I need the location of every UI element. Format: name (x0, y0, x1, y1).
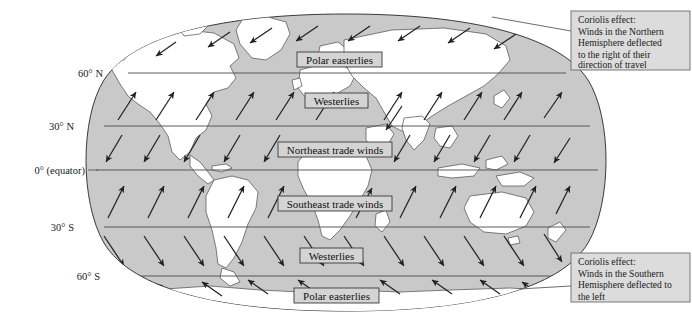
latitude-label-60s: 60° S (77, 271, 100, 282)
latitude-label-30s: 30° S (51, 222, 74, 233)
map-svg: 60° N 30° N 0° (equator) 30° S 60° S Pol… (0, 0, 692, 326)
label-text: Westerlies (309, 250, 355, 262)
callout-line-4: to the right of their (578, 49, 651, 60)
callout-line-1: Coriolis effect: (578, 256, 636, 267)
latitude-label-equator: 0° (equator) (34, 165, 85, 177)
label-text: Northeast trade winds (287, 144, 384, 156)
wind-band-label-northeast-trade-winds[interactable]: Northeast trade winds (278, 142, 392, 157)
label-text: Polar easterlies (303, 290, 370, 302)
callout-line-3: Hemisphere deflected to (578, 279, 672, 290)
callout-line-5: direction of travel (578, 59, 647, 70)
label-text: Polar easterlies (306, 54, 373, 66)
label-text: Westerlies (314, 95, 360, 107)
callout-line-1: Coriolis effect: (578, 14, 636, 25)
wind-band-label-westerlies-south[interactable]: Westerlies (300, 248, 363, 263)
callout-line-3: Hemisphere deflected (578, 37, 662, 48)
callout-line-2: Winds in the Northern (578, 26, 664, 37)
callout-line-4: the left (578, 291, 605, 302)
wind-band-label-polar-easterlies-north[interactable]: Polar easterlies (297, 52, 382, 67)
latitude-label-30n: 30° N (49, 121, 74, 132)
callout-line-2: Winds in the Southern (578, 268, 664, 279)
label-text: Southeast trade winds (287, 198, 384, 210)
global-wind-belts-figure: 60° N 30° N 0° (equator) 30° S 60° S Pol… (0, 0, 692, 326)
wind-band-label-polar-easterlies-south[interactable]: Polar easterlies (294, 288, 379, 303)
latitude-label-60n: 60° N (78, 68, 103, 79)
wind-band-label-southeast-trade-winds[interactable]: Southeast trade winds (278, 196, 392, 211)
wind-band-label-westerlies-north[interactable]: Westerlies (305, 93, 368, 108)
